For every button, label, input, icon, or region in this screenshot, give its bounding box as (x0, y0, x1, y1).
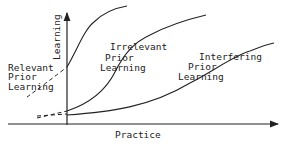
interfering-label-line-3: Learning (178, 71, 224, 82)
irrelevant-label: Irrelevant Prior Learning (100, 41, 167, 73)
relevant-label: Relevant Prior Learning (8, 62, 54, 92)
learning-curves-diagram: Learning Practice Relevant Prior Learnin… (0, 0, 288, 147)
y-axis-label: Learning (51, 14, 62, 60)
x-axis-label: Practice (115, 129, 161, 140)
relevant-label-line-3: Learning (8, 81, 54, 92)
irrelevant-label-line-3: Learning (100, 62, 146, 73)
irrelevant-label-line-1: Irrelevant (110, 41, 167, 52)
